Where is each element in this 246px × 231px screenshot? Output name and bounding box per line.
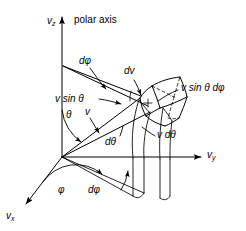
theta-angle-arc [62,110,81,142]
leader-dv [134,80,141,95]
label-dphi-lower: dφ [88,185,100,195]
leader-v-sin-theta-dphi [158,90,178,101]
volume-element-dv [140,77,187,126]
radius-vector-v-plus-dtheta [62,112,150,157]
ground-projection-wedge [62,157,170,200]
label-v: v [85,107,90,117]
velocity-space-volume-element-figure: vz polar axis vy vx dφ v sin θ v sin θ d… [0,0,246,231]
leader-upper-dphi [90,68,106,89]
axis-label-vy-sub: y [212,154,216,161]
axis-label-vx: vx [6,211,15,222]
label-v-dtheta: v dθ [157,130,176,140]
axis-label-vz-sub: z [52,20,56,27]
diagram-canvas [0,0,246,231]
label-theta: θ [66,110,71,120]
leader-v-vector [90,118,99,133]
label-v-sin-theta: v sin θ [55,94,84,104]
phi-angle-arc [43,164,102,182]
axis-label-vz: vz [47,16,56,27]
label-dphi-upper: dφ [79,56,91,66]
polar-axis-label: polar axis [74,15,117,25]
lower-dphi-arc [121,171,128,190]
label-phi: φ [58,185,65,195]
axis-label-vy: vy [207,150,216,161]
label-dv: dv [124,66,135,76]
radius-vector-v [62,98,140,157]
label-dtheta: dθ [105,137,116,147]
label-v-sin-theta-dphi: v sin θ dφ [181,83,225,93]
leader-v-sin-theta [99,99,121,104]
leader-v-dtheta [142,127,155,136]
axis-label-vx-sub: x [11,215,15,222]
